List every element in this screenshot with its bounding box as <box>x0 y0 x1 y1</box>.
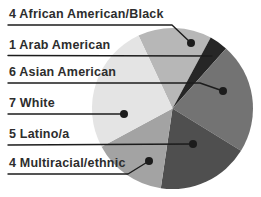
legend-label-latino-a: 5 Latino/a <box>9 128 69 141</box>
leader-dot-multiracial-ethnic <box>145 157 153 165</box>
leader-dot-african-american-black <box>187 39 195 47</box>
legend-label-african-american-black: 4 African American/Black <box>9 8 164 21</box>
legend-label-asian-american: 6 Asian American <box>9 66 116 79</box>
leader-line-arab-american <box>8 56 212 57</box>
legend-label-arab-american: 1 Arab American <box>9 39 110 52</box>
leader-dot-asian-american <box>219 87 227 95</box>
leader-line-latino-a <box>8 144 193 145</box>
legend-label-multiracial-ethnic: 4 Multiracial/ethnic <box>9 157 126 170</box>
diversity-pie-figure: 4 African American/Black 1 Arab American… <box>0 0 261 197</box>
leader-dot-white <box>120 110 128 118</box>
leader-dot-latino-a <box>189 140 197 148</box>
legend-label-white: 7 White <box>9 97 55 110</box>
